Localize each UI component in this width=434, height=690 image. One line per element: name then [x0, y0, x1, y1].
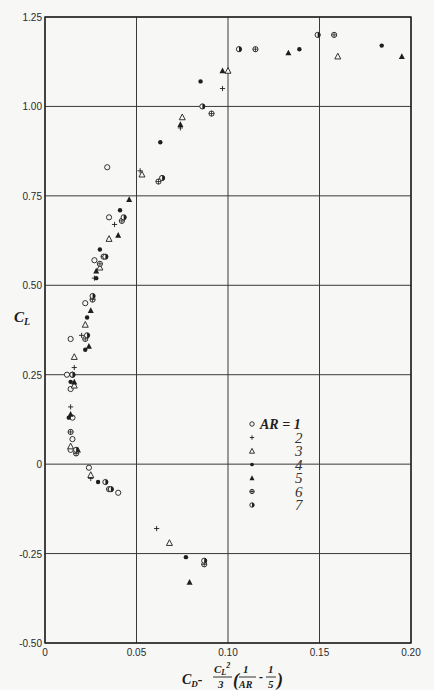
svg-text:1: 1 — [268, 663, 274, 675]
filled-triangle-marker-icon — [399, 53, 405, 59]
half-filled-circle-marker-icon — [236, 47, 241, 52]
filled-circle-marker-icon — [118, 208, 122, 212]
filled-circle-marker-icon — [297, 47, 301, 51]
half-filled-circle-marker-icon — [90, 293, 95, 298]
y-tick-label: 0.25 — [23, 370, 43, 381]
filled-triangle-marker-icon — [220, 68, 226, 74]
circle-plus-marker-icon — [332, 32, 337, 37]
half-filled-circle-marker-icon — [315, 32, 320, 37]
x-tick-label: 0 — [42, 647, 48, 658]
open-triangle-marker-icon — [335, 53, 341, 59]
x-tick-label: 0.20 — [401, 647, 421, 658]
drag-polar-scatter-chart: 1.251.000.750.500.250-0.25-0.50 00.050.1… — [0, 0, 434, 690]
filled-circle-marker-icon — [380, 43, 384, 47]
half-filled-circle-marker-icon — [74, 447, 79, 452]
open-circle-marker-icon — [250, 422, 254, 426]
plus-marker-icon — [250, 435, 254, 439]
open-circle-marker-icon — [116, 490, 121, 495]
plus-marker-icon — [220, 86, 225, 91]
open-triangle-marker-icon — [71, 354, 77, 360]
open-triangle-marker-icon — [106, 236, 112, 242]
open-triangle-marker-icon — [225, 68, 231, 74]
half-filled-circle-marker-icon — [84, 333, 89, 338]
filled-triangle-marker-icon — [88, 307, 94, 313]
filled-triangle-marker-icon — [187, 579, 193, 585]
svg-text:5: 5 — [268, 678, 274, 690]
circle-plus-marker-icon — [68, 429, 73, 434]
x-tick-label: 0.05 — [127, 647, 147, 658]
series-ar5 — [68, 50, 405, 585]
filled-circle-marker-icon — [198, 79, 202, 83]
legend-label: 7 — [295, 497, 304, 513]
y-tick-label: 0.50 — [23, 280, 43, 291]
half-filled-circle-marker-icon — [70, 372, 75, 377]
open-circle-marker-icon — [106, 215, 111, 220]
open-triangle-marker-icon — [68, 443, 74, 449]
half-filled-circle-marker-icon — [200, 104, 205, 109]
data-points — [64, 32, 404, 585]
svg-text:): ) — [275, 670, 283, 690]
filled-triangle-marker-icon — [115, 232, 121, 238]
filled-circle-marker-icon — [250, 463, 254, 467]
half-filled-circle-marker-icon — [108, 487, 113, 492]
plus-marker-icon — [154, 526, 159, 531]
open-triangle-marker-icon — [249, 448, 254, 453]
half-filled-circle-marker-icon — [103, 479, 108, 484]
open-triangle-marker-icon — [82, 322, 88, 328]
y-tick-label: -0.50 — [19, 638, 42, 649]
svg-text:CD-: CD- — [182, 672, 203, 689]
y-tick-label: 0 — [36, 459, 42, 470]
filled-circle-marker-icon — [96, 480, 100, 484]
open-triangle-marker-icon — [166, 540, 172, 546]
series-ar1 — [64, 165, 120, 496]
circle-plus-marker-icon — [250, 489, 254, 493]
filled-triangle-marker-icon — [177, 121, 183, 127]
svg-text:3: 3 — [217, 678, 224, 690]
x-axis-ticks: 00.050.100.150.20 — [42, 647, 421, 658]
filled-triangle-marker-icon — [126, 196, 132, 202]
y-tick-label: -0.25 — [19, 549, 42, 560]
filled-triangle-marker-icon — [249, 475, 254, 480]
plus-marker-icon — [72, 365, 77, 370]
y-tick-label: 1.00 — [23, 101, 43, 112]
legend: AR = 1234567 — [249, 417, 304, 513]
half-filled-circle-marker-icon — [160, 175, 165, 180]
grid-lines — [45, 17, 411, 643]
filled-circle-marker-icon — [85, 315, 89, 319]
circle-plus-marker-icon — [97, 261, 102, 266]
open-circle-marker-icon — [83, 301, 88, 306]
y-tick-label: 0.75 — [23, 191, 43, 202]
y-axis-ticks: 1.251.000.750.500.250-0.25-0.50 — [19, 12, 42, 649]
open-triangle-marker-icon — [88, 472, 94, 478]
half-filled-circle-marker-icon — [103, 254, 108, 259]
y-tick-label: 1.25 — [23, 12, 43, 23]
open-circle-marker-icon — [70, 437, 75, 442]
filled-circle-marker-icon — [184, 555, 188, 559]
plus-marker-icon — [68, 404, 73, 409]
open-circle-marker-icon — [68, 336, 73, 341]
filled-circle-marker-icon — [158, 140, 162, 144]
circle-plus-marker-icon — [253, 47, 258, 52]
open-circle-marker-icon — [92, 258, 97, 263]
open-circle-marker-icon — [105, 165, 110, 170]
x-tick-label: 0.15 — [310, 647, 330, 658]
half-filled-circle-marker-icon — [121, 215, 126, 220]
svg-text:-: - — [259, 670, 263, 684]
x-tick-label: 0.10 — [218, 647, 238, 658]
open-circle-marker-icon — [64, 372, 69, 377]
y-axis-label: CL — [14, 309, 30, 327]
circle-plus-marker-icon — [209, 111, 214, 116]
series-ar7 — [70, 32, 320, 563]
svg-text:CL2: CL2 — [214, 661, 230, 677]
svg-text:AR: AR — [238, 679, 253, 690]
filled-circle-marker-icon — [94, 276, 98, 280]
half-filled-circle-marker-icon — [250, 503, 254, 507]
filled-triangle-marker-icon — [68, 411, 74, 417]
filled-circle-marker-icon — [98, 247, 102, 251]
half-filled-circle-marker-icon — [202, 558, 207, 563]
plus-marker-icon — [112, 222, 117, 227]
open-triangle-marker-icon — [179, 114, 185, 120]
series-ar4 — [67, 43, 384, 559]
filled-triangle-marker-icon — [285, 50, 291, 56]
svg-text:1: 1 — [243, 663, 249, 675]
